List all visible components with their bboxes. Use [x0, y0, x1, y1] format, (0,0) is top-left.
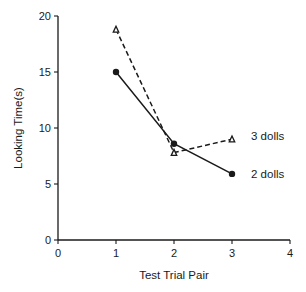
chart-canvas: 0510152001234 3 dolls2 dolls Test Trial …	[0, 0, 306, 292]
series-line	[116, 72, 232, 174]
y-tick-label: 5	[45, 178, 51, 190]
x-tick-label: 4	[287, 247, 293, 259]
x-tick-label: 0	[55, 247, 61, 259]
data-point-triangle	[171, 149, 177, 155]
series-label: 3 dolls	[251, 130, 284, 142]
x-axis-title: Test Trial Pair	[139, 269, 209, 281]
series-2-dolls: 2 dolls	[113, 69, 285, 180]
x-tick-label: 2	[171, 247, 177, 259]
series-3-dolls: 3 dolls	[113, 26, 284, 155]
x-tick-label: 1	[113, 247, 119, 259]
data-point-circle	[113, 69, 119, 75]
y-tick-label: 0	[45, 234, 51, 246]
series-label: 2 dolls	[251, 168, 284, 180]
line-chart: 0510152001234 3 dolls2 dolls Test Trial …	[0, 0, 306, 292]
data-point-circle	[171, 140, 177, 146]
x-tick-label: 3	[229, 247, 235, 259]
y-tick-label: 15	[39, 66, 51, 78]
data-point-circle	[229, 171, 235, 177]
series-line	[116, 29, 232, 152]
y-axis-title: Looking Time(s)	[12, 87, 24, 169]
series-layer: 3 dolls2 dolls	[113, 26, 285, 180]
data-point-triangle	[113, 26, 119, 32]
data-point-triangle	[229, 136, 235, 142]
y-tick-label: 20	[39, 10, 51, 22]
y-tick-label: 10	[39, 122, 51, 134]
